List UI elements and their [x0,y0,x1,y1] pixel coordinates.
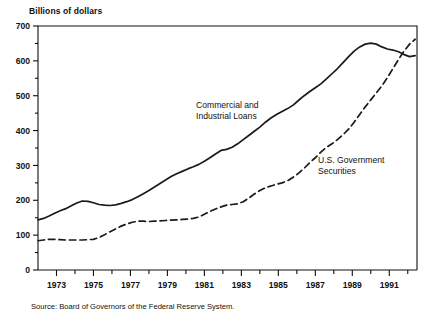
y-axis-tick-label: 200 [16,195,31,205]
series-label-commercial-industrial-loans: Commercial and [196,100,259,110]
x-axis-tick-label: 1985 [269,280,288,290]
x-axis-tick-label: 1975 [84,280,103,290]
x-axis-tick-label: 1991 [380,280,399,290]
x-axis-tick-label: 1981 [195,280,214,290]
x-axis-tick-label: 1987 [306,280,325,290]
x-axis-tick-label: 1973 [47,280,66,290]
series-label-us-government-securities-line2: Securities [318,166,356,176]
y-axis-tick-label: 600 [16,56,31,66]
line-chart-plot: 0100200300400500600700197319751977197919… [0,0,429,318]
x-axis-tick-label: 1989 [343,280,362,290]
source-note: Source: Board of Governors of the Federa… [31,302,234,311]
x-axis-tick-label: 1979 [158,280,177,290]
x-axis-tick-label: 1983 [232,280,251,290]
y-axis-tick-label: 700 [16,21,31,31]
series-line-us-government-securities [38,39,415,240]
y-axis-tick-label: 400 [16,126,31,136]
chart-figure: Billions of dollars 01002003004005006007… [0,0,429,318]
series-label-us-government-securities: U.S. Government [318,155,385,165]
y-axis-tick-label: 500 [16,91,31,101]
plot-frame [38,26,417,270]
x-axis-tick-label: 1977 [121,280,140,290]
y-axis-tick-label: 0 [25,265,30,275]
y-axis-tick-label: 100 [16,230,31,240]
series-label-commercial-industrial-loans-line2: Industrial Loans [196,111,257,121]
y-axis-tick-label: 300 [16,161,31,171]
series-line-commercial-industrial-loans [38,43,415,220]
